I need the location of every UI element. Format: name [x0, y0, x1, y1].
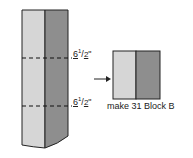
- measure-num: 1: [78, 96, 81, 102]
- right-arrow-icon: [94, 76, 111, 82]
- cutting-diagram: [0, 0, 193, 158]
- measurement-label-2: 61/2": [73, 96, 92, 107]
- block-caption: make 31 Block B: [107, 101, 175, 111]
- strip-right-half: [45, 10, 68, 148]
- block-right-half: [136, 51, 160, 99]
- measure-unit: ": [88, 97, 91, 107]
- measurement-label-1: 61/2": [73, 48, 92, 59]
- measure-unit: ": [88, 49, 91, 59]
- strip-left-half: [22, 10, 45, 148]
- block-left-half: [113, 51, 136, 99]
- measure-num: 1: [78, 48, 81, 54]
